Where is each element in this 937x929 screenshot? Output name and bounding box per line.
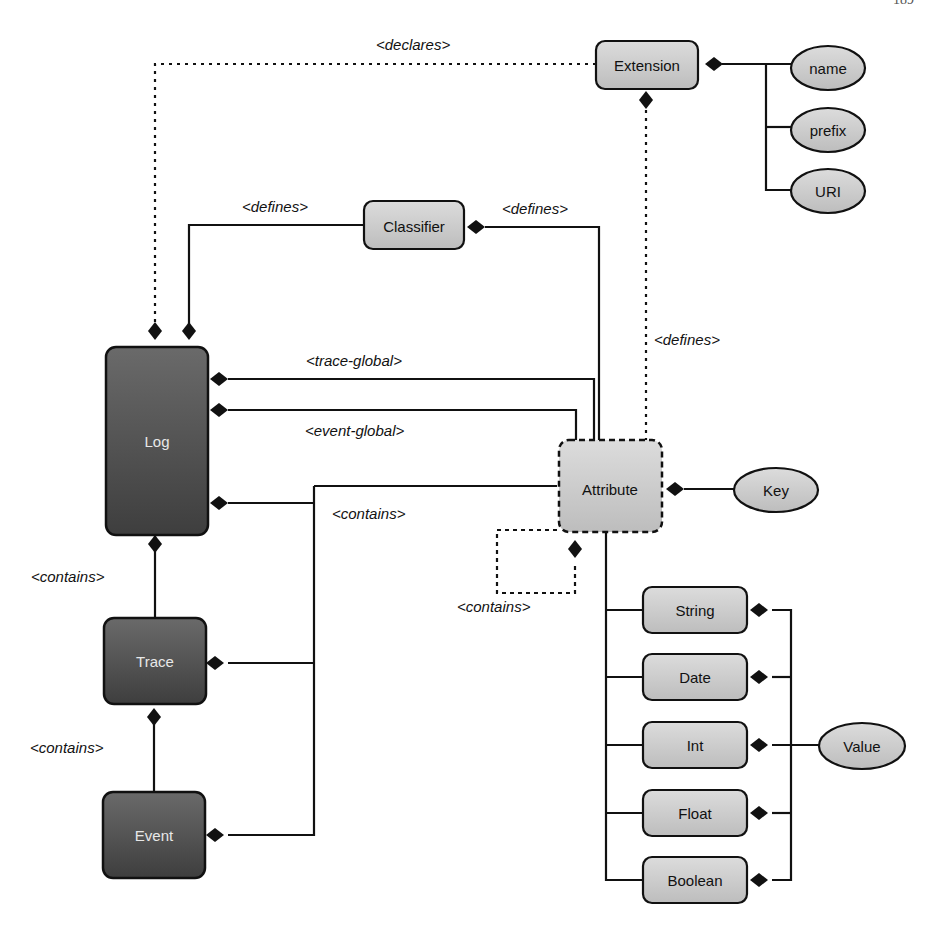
diamond-icon (182, 322, 196, 340)
node-type-int[interactable]: Int (643, 722, 747, 768)
label-declares: <declares> (376, 36, 450, 53)
diamond-icon (750, 738, 768, 752)
node-attribute[interactable]: Attribute (559, 440, 662, 532)
svg-text:Extension: Extension (614, 57, 680, 74)
node-trace[interactable]: Trace (104, 618, 206, 704)
diamond-icon (206, 656, 224, 670)
diamond-icon (750, 670, 768, 684)
diamond-icon (148, 535, 162, 553)
generalization-bus (606, 530, 643, 880)
diamond-icon (210, 496, 228, 510)
svg-text:Event: Event (135, 827, 174, 844)
attr-contains-bus (228, 486, 314, 835)
label-contains-attribute: <contains> (332, 505, 406, 522)
label-contains-log-trace: <contains> (31, 568, 105, 585)
svg-text:Attribute: Attribute (582, 481, 638, 498)
svg-text:name: name (809, 60, 847, 77)
node-type-float[interactable]: Float (643, 790, 747, 836)
defines-attribute-classifier-connector (485, 227, 599, 440)
diagram-canvas: 189 (0, 0, 937, 929)
node-key[interactable]: Key (734, 468, 818, 512)
node-value[interactable]: Value (819, 723, 905, 769)
diamond-icon (210, 372, 228, 386)
node-type-date[interactable]: Date (643, 654, 747, 700)
svg-text:Trace: Trace (136, 653, 174, 670)
label-contains-self: <contains> (457, 598, 531, 615)
svg-text:Value: Value (843, 738, 880, 755)
self-contains-connector (497, 530, 575, 593)
node-type-boolean[interactable]: Boolean (643, 857, 747, 903)
node-log[interactable]: Log (106, 347, 208, 535)
page-number: 189 (893, 0, 914, 7)
diamond-icon (147, 708, 161, 726)
diamond-icon (705, 57, 723, 71)
svg-text:Date: Date (679, 669, 711, 686)
svg-text:URI: URI (815, 183, 841, 200)
declares-connector (155, 64, 596, 330)
node-extension[interactable]: Extension (596, 41, 698, 89)
node-name[interactable]: name (791, 46, 865, 90)
node-type-string[interactable]: String (643, 587, 747, 633)
diamond-icon (750, 603, 768, 617)
diamond-icon (210, 403, 228, 417)
svg-text:String: String (675, 602, 714, 619)
label-defines-log-classifier: <defines> (242, 198, 308, 215)
node-prefix[interactable]: prefix (791, 108, 865, 152)
diamond-icon (568, 540, 582, 558)
svg-text:prefix: prefix (810, 122, 847, 139)
node-classifier[interactable]: Classifier (364, 201, 464, 249)
node-event[interactable]: Event (103, 792, 205, 878)
svg-text:Boolean: Boolean (667, 872, 722, 889)
diamond-icon (750, 873, 768, 887)
label-contains-trace-event: <contains> (30, 739, 104, 756)
label-trace-global: <trace-global> (306, 352, 402, 369)
svg-text:Float: Float (678, 805, 712, 822)
svg-text:Log: Log (144, 433, 169, 450)
defines-classifier-log-connector (189, 225, 363, 330)
diamond-icon (666, 482, 684, 496)
diamond-icon (639, 91, 653, 109)
label-defines-classifier-attribute: <defines> (502, 200, 568, 217)
svg-text:Int: Int (687, 737, 705, 754)
diamond-icon (148, 322, 162, 340)
svg-text:Classifier: Classifier (383, 218, 445, 235)
diamond-icon (750, 806, 768, 820)
label-defines-extension-attribute: <defines> (654, 331, 720, 348)
label-event-global: <event-global> (305, 422, 404, 439)
diamond-icon (206, 828, 224, 842)
diamond-icon (467, 220, 485, 234)
svg-text:Key: Key (763, 482, 789, 499)
node-uri[interactable]: URI (791, 169, 865, 213)
